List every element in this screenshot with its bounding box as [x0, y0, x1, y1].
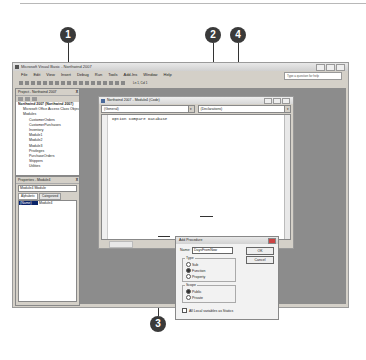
tab-alphabetic[interactable]: Alphabetic: [18, 193, 38, 200]
code-window-titlebar: Northwind 2007 - Module4 (Code): [99, 97, 293, 104]
code-line[interactable]: Option Compare Database: [112, 117, 167, 121]
horizontal-scrollbar[interactable]: [109, 241, 133, 248]
page-divider: [20, 3, 366, 4]
code-editor[interactable]: Option Compare Database: [101, 114, 291, 240]
properties-pane: Properties - Module4 X Module4 Module Al…: [15, 176, 80, 306]
undo-icon[interactable]: [61, 81, 65, 85]
properties-header: Properties - Module4 X: [16, 177, 79, 184]
procedure-combo-value: (Declarations): [201, 107, 223, 111]
scope-group-label: Scope: [185, 283, 197, 287]
tab-categorized[interactable]: Categorized: [39, 193, 61, 200]
procedure-name-input[interactable]: DaysFromNow: [192, 247, 233, 254]
ok-button[interactable]: OK: [246, 247, 274, 255]
object-browser-icon[interactable]: [109, 81, 113, 85]
callout-3: 3: [150, 316, 166, 332]
project-explorer-icon[interactable]: [97, 81, 101, 85]
menu-window[interactable]: Window: [143, 71, 157, 79]
menu-help[interactable]: Help: [164, 71, 172, 79]
checkbox-box[interactable]: [182, 308, 187, 313]
object-selector[interactable]: Module4 Module: [18, 185, 77, 192]
view-code-icon[interactable]: [18, 97, 23, 101]
menu-debug[interactable]: Debug: [77, 71, 89, 79]
property-key: (Name): [19, 201, 38, 205]
callout-4: 4: [230, 27, 246, 43]
callout-1: 1: [60, 27, 76, 43]
chevron-down-icon[interactable]: ▾: [188, 106, 194, 112]
run-icon[interactable]: [73, 81, 77, 85]
menu-file[interactable]: File: [21, 71, 27, 79]
maximize-button[interactable]: [273, 98, 281, 104]
radio-private[interactable]: Private: [186, 295, 203, 300]
close-button[interactable]: [336, 64, 345, 71]
minimize-button[interactable]: [316, 64, 325, 71]
radio-sub[interactable]: Sub: [186, 262, 198, 267]
redo-icon[interactable]: [67, 81, 71, 85]
code-window-title: Northwind 2007 - Module4 (Code): [107, 98, 160, 102]
toolbox-icon[interactable]: [115, 81, 119, 85]
callout-3-connector: [158, 236, 170, 237]
standard-toolbar: Ln 1, Col 1: [13, 79, 348, 87]
type-group-label: Type: [185, 256, 195, 260]
tree-item[interactable]: Utilities: [18, 164, 79, 169]
find-icon[interactable]: [55, 81, 59, 85]
cancel-button[interactable]: Cancel: [246, 256, 274, 264]
type-group: Type Sub Function Property: [182, 258, 236, 282]
app-icon: [15, 65, 19, 69]
maximize-button[interactable]: [326, 64, 335, 71]
code-window: Northwind 2007 - Module4 (Code) (General…: [98, 96, 294, 249]
help-icon[interactable]: [121, 81, 125, 85]
callout-2-connector: [200, 216, 213, 217]
property-value[interactable]: Module4: [38, 201, 52, 205]
radio-function[interactable]: Function: [186, 268, 205, 273]
save-icon[interactable]: [31, 81, 35, 85]
view-access-icon[interactable]: [19, 81, 23, 85]
object-combo[interactable]: (General) ▾: [101, 105, 195, 113]
dialog-title: Add Procedure: [179, 238, 202, 242]
cut-icon[interactable]: [37, 81, 41, 85]
project-explorer-header: Project - Northwind 2007 X: [16, 89, 79, 96]
callout-2: 2: [205, 27, 221, 43]
statics-checkbox-label: All Local variables as Statics: [189, 309, 233, 313]
mdi-workspace: Northwind 2007 - Module4 (Code) (General…: [80, 88, 346, 304]
insert-module-icon[interactable]: [25, 81, 29, 85]
dialog-titlebar: Add Procedure: [176, 237, 278, 244]
close-button[interactable]: [282, 98, 290, 104]
menu-run[interactable]: Run: [95, 71, 102, 79]
design-mode-icon[interactable]: [91, 81, 95, 85]
view-object-icon[interactable]: [25, 97, 30, 101]
chevron-down-icon[interactable]: ▾: [284, 106, 290, 112]
properties-title: Properties - Module4: [18, 178, 51, 182]
close-icon[interactable]: [268, 238, 276, 244]
scope-group: Scope Public Private: [182, 285, 236, 303]
project-explorer-pane: Project - Northwind 2007 X Northwind 200…: [15, 88, 80, 176]
close-icon[interactable]: X: [76, 177, 78, 183]
radio-property[interactable]: Property: [186, 274, 205, 279]
cursor-position: Ln 1, Col 1: [133, 81, 148, 85]
menu-addins[interactable]: Add-Ins: [123, 71, 137, 79]
menu-view[interactable]: View: [46, 71, 55, 79]
close-icon[interactable]: X: [76, 89, 78, 95]
vba-editor-window: Microsoft Visual Basic - Northwind 2007 …: [12, 62, 349, 308]
reset-icon[interactable]: [85, 81, 89, 85]
procedure-combo[interactable]: (Declarations) ▾: [198, 105, 292, 113]
property-grid: (Name) Module4: [18, 200, 77, 302]
module-icon: [101, 99, 105, 103]
properties-icon[interactable]: [103, 81, 107, 85]
code-margin: [102, 115, 108, 239]
copy-icon[interactable]: [43, 81, 47, 85]
window-title: Microsoft Visual Basic - Northwind 2007: [21, 64, 92, 69]
toggle-folders-icon[interactable]: [32, 97, 37, 101]
project-explorer-title: Project - Northwind 2007: [18, 90, 57, 94]
vertical-scrollbar[interactable]: [284, 115, 290, 239]
menu-edit[interactable]: Edit: [33, 71, 40, 79]
add-procedure-dialog: Add Procedure Name: DaysFromNow OK Cance…: [175, 236, 279, 320]
menu-insert[interactable]: Insert: [61, 71, 71, 79]
minimize-button[interactable]: [264, 98, 272, 104]
paste-icon[interactable]: [49, 81, 53, 85]
break-icon[interactable]: [79, 81, 83, 85]
name-label: Name:: [180, 248, 190, 252]
statics-checkbox[interactable]: All Local variables as Statics: [182, 308, 233, 313]
property-row[interactable]: (Name) Module4: [19, 201, 76, 205]
radio-public[interactable]: Public: [186, 289, 202, 294]
menu-tools[interactable]: Tools: [108, 71, 117, 79]
